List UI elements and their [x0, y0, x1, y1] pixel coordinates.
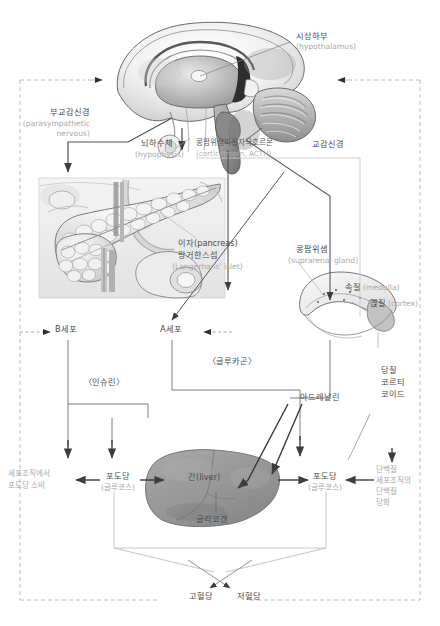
- label-glucose-right-en: (글루코스): [298, 484, 352, 493]
- label-hyperglycemia: 고혈당: [178, 592, 224, 601]
- glucocorticoid-down: [348, 414, 370, 460]
- label-hypothalamus-ko: 시상하부: [296, 32, 328, 41]
- label-insulin: 〈인슈린〉: [84, 378, 124, 387]
- diagram-canvas: 시상하부 (hypothalamus) 부교감신경 (parasympathet…: [0, 0, 440, 626]
- label-liver: 간(liver): [188, 473, 220, 482]
- label-protein-l2: 세포조직의: [376, 477, 411, 486]
- bracket-diag-right: [226, 548, 326, 572]
- label-suprarenal-ko: 콩팜위샘: [296, 245, 328, 254]
- leader-adrenal: [298, 262, 324, 296]
- sympathetic-path: [246, 140, 330, 300]
- label-langerhans-en: (Langerhans' islet): [172, 263, 243, 272]
- flow-connectors: [0, 0, 440, 626]
- label-medulla-ko: 속질: [345, 283, 361, 292]
- label-hypoglycemia: 저혈당: [226, 592, 272, 601]
- label-glucose-right-ko: 포도당: [300, 472, 350, 481]
- label-medulla-en: (medulla): [363, 284, 400, 293]
- leader-pancreas: [160, 212, 196, 238]
- label-glucose-left-ko: 포도당: [90, 472, 146, 481]
- label-glucocorticoid-l2: 코르티: [381, 378, 405, 387]
- label-protein-l3: 단백질: [376, 488, 397, 497]
- label-a-cell: A세포: [160, 325, 182, 334]
- leader-pituitary: [176, 138, 190, 148]
- label-suprarenal-en: (suprarenal gland): [288, 257, 358, 266]
- label-glucose-left-en: (글루코스): [90, 484, 146, 493]
- label-sympathetic-ko: 교감신경: [312, 140, 344, 149]
- label-hypophysis-en: (hypophysis): [135, 151, 184, 160]
- label-acth-en: (corticotropin, ACTH): [196, 150, 271, 158]
- arrow-to-hypoglycemia: [188, 560, 230, 588]
- label-cortex-ko: 곉질: [370, 299, 386, 308]
- adrenaline-to-liver-2: [272, 404, 302, 474]
- label-langerhans-ko: 랑거한스섬: [178, 251, 218, 260]
- label-hypophysis-ko: 뇌하수체: [141, 139, 173, 148]
- bracket-diag-left: [114, 548, 214, 572]
- label-b-cell: B세포: [55, 325, 77, 334]
- label-parasympathetic-en1: (parasympathetic: [0, 120, 90, 129]
- label-parasympathetic-en2: nervous): [0, 130, 90, 139]
- label-tissue-consumption-l2: 포도당 소비: [8, 482, 45, 491]
- label-parasympathetic-ko: 부교감신경: [6, 108, 90, 117]
- label-glucocorticoid-l3: 코이드: [381, 390, 405, 399]
- label-glucagon: 〈글루카곤〉: [208, 357, 256, 366]
- leader-hypothalamus: [200, 42, 290, 76]
- label-acth-ko: 콩팜위샘피질자극호르몬: [196, 139, 273, 148]
- label-tissue-consumption-l1: 세포조직에서: [8, 470, 50, 479]
- sympathetic-box: [196, 158, 360, 316]
- adrenaline-to-liver: [238, 404, 288, 488]
- label-pancreas-ko: 이자(pancreas): [178, 239, 238, 248]
- label-protein-l1: 단백질: [376, 466, 397, 475]
- label-protein-l4: 당화: [376, 499, 390, 508]
- label-cortex-en: (cortex): [388, 300, 418, 309]
- label-adrenaline: 아드레날린: [300, 393, 340, 402]
- arrow-to-hyperglycemia: [210, 560, 252, 588]
- label-glycogen: 글리코겐: [196, 515, 228, 524]
- label-glucocorticoid-l1: 당질: [381, 366, 397, 375]
- label-hypothalamus-en: (hypothalamus): [296, 43, 356, 52]
